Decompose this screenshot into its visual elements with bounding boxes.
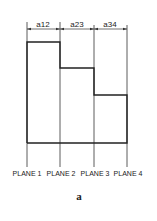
plane-3-label: PLANE 3 [81,170,110,177]
dimension-a12: a12 [36,20,49,29]
plane-2-label: PLANE 2 [47,170,76,177]
stepped-outline [27,42,127,143]
plane-4-label: PLANE 4 [114,170,143,177]
stepped-profile-diagram [0,0,157,221]
dimension-a23: a23 [70,20,83,29]
figure-caption: a [76,190,82,202]
dimension-a34: a34 [103,20,116,29]
plane-1-label: PLANE 1 [13,170,42,177]
